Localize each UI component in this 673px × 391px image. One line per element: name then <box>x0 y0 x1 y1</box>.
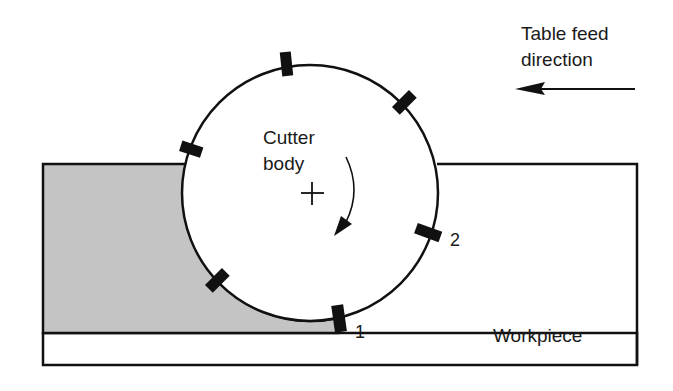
feed-label-line2: direction <box>521 49 593 70</box>
cutter-label-line1: Cutter <box>263 127 315 148</box>
workpiece-label: Workpiece <box>493 325 582 346</box>
feed-label-line1: Table feed <box>521 23 609 44</box>
feed-arrow-head-icon <box>515 82 545 95</box>
insert-label-2: 2 <box>450 230 460 250</box>
face-milling-diagram: Table feed direction Cutter body 1 2 Wor… <box>0 0 673 391</box>
insert-label-1: 1 <box>355 322 365 342</box>
cutter-label-line2: body <box>263 153 305 174</box>
